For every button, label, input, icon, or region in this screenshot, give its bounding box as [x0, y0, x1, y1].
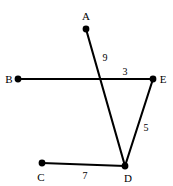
- vertex-dot-d: [122, 163, 129, 170]
- segment-ad: [86, 29, 125, 166]
- vertex-dot-a: [83, 26, 90, 33]
- vertex-dot-e: [150, 76, 157, 83]
- segment-length-label-be: 3: [123, 67, 128, 77]
- vertex-label-c: C: [37, 172, 44, 183]
- vertex-dot-c: [39, 160, 46, 167]
- vertex-label-b: B: [5, 74, 12, 85]
- vertex-label-a: A: [82, 11, 90, 22]
- segments-group: [18, 29, 153, 166]
- geometry-figure: A B C D E 9 3 5 7: [0, 0, 173, 186]
- vertex-label-e: E: [160, 74, 167, 85]
- segment-length-label-ad: 9: [103, 53, 108, 63]
- segment-length-label-ed: 5: [144, 123, 149, 133]
- figure-canvas: [0, 0, 173, 186]
- vertex-label-d: D: [124, 173, 132, 184]
- segment-ed: [125, 79, 153, 166]
- vertex-dots-group: [15, 26, 157, 170]
- segment-length-label-cd: 7: [83, 171, 88, 181]
- segment-cd: [42, 163, 125, 166]
- vertex-dot-b: [15, 76, 22, 83]
